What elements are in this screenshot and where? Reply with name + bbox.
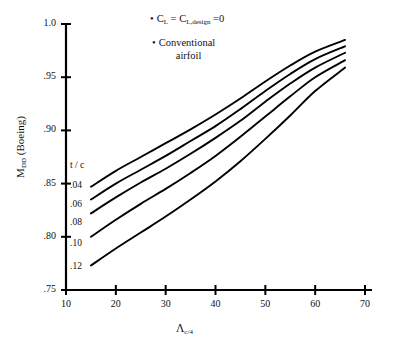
- y-tick-label: .80: [26, 230, 56, 241]
- x-tick-label: 40: [203, 298, 229, 309]
- series-curve: [91, 60, 345, 237]
- x-tick-label: 60: [302, 298, 328, 309]
- annotation-cl-text: CL = CL,design =0: [157, 13, 225, 24]
- annotation-airfoil-line1: Conventional: [159, 37, 216, 48]
- y-tick-label: .90: [26, 123, 56, 134]
- series-curve: [91, 53, 345, 214]
- series-curve: [91, 46, 345, 199]
- chart-series-curves: [91, 40, 345, 266]
- series-curve: [91, 68, 345, 266]
- chart-figure: •CL = CL,design =0 •Conventional airfoil…: [0, 0, 394, 349]
- annotation-airfoil-line2: airfoil: [152, 49, 215, 62]
- x-tick-label: 10: [53, 298, 79, 309]
- series-curve: [91, 40, 345, 187]
- y-tick-label: .75: [26, 283, 56, 294]
- bullet-icon: •: [152, 37, 156, 48]
- annotation-cl-design: •CL = CL,design =0: [150, 12, 224, 27]
- annotation-conventional-airfoil: •Conventional airfoil: [152, 36, 215, 62]
- series-label-04: .04: [70, 180, 82, 190]
- bullet-icon: •: [150, 13, 154, 24]
- series-label-08: .08: [70, 217, 82, 227]
- series-label-12: .12: [70, 261, 82, 271]
- y-tick-label: .85: [26, 177, 56, 188]
- series-label-06: .06: [70, 199, 82, 209]
- x-axis-title: Λc/4: [176, 322, 193, 336]
- x-tick-label: 70: [352, 298, 378, 309]
- series-label-10: .10: [70, 238, 82, 248]
- y-tick-label: .95: [26, 70, 56, 81]
- x-tick-label: 50: [252, 298, 278, 309]
- x-tick-label: 20: [103, 298, 129, 309]
- y-tick-label: 1.0: [26, 17, 56, 28]
- series-group-label: t / c: [70, 160, 84, 170]
- x-tick-label: 30: [153, 298, 179, 309]
